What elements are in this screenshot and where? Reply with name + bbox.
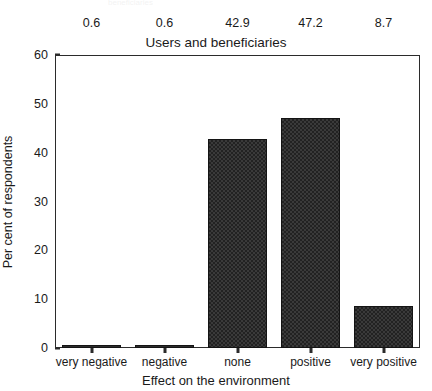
chart-title: Users and beneficiaries [0, 34, 432, 51]
x-axis-category-label: negative [142, 355, 187, 370]
y-axis-tick-label: 0 [14, 342, 48, 354]
x-axis-category-label: very positive [350, 355, 417, 370]
data-value-label: 0.6 [55, 14, 128, 32]
x-axis-ticks: very negativenegativenonepositivevery po… [55, 348, 420, 372]
y-axis-tick-label: 20 [14, 244, 48, 256]
bar-slot [354, 55, 412, 348]
x-axis-category-label: none [224, 355, 251, 370]
data-value-label-row: 0.60.642.947.28.7 [55, 14, 420, 32]
x-axis-tick-mark [163, 348, 166, 353]
data-value-label: 42.9 [201, 14, 274, 32]
x-axis-title: Effect on the environment [0, 372, 432, 389]
data-value-label: 0.6 [128, 14, 201, 32]
x-axis-tick-mark [236, 348, 239, 353]
x-axis-tick-mark [309, 348, 312, 353]
y-axis-tick-label: 10 [14, 293, 48, 305]
y-axis-title-text: Per cent of respondents [1, 135, 15, 268]
data-value-label: 47.2 [274, 14, 347, 32]
y-axis-tick-label: 60 [14, 49, 48, 61]
cropped-text-remnant: beneficiaries [108, 0, 204, 6]
bar [354, 306, 412, 348]
bar-slot [208, 55, 266, 348]
x-axis-category-label: positive [290, 355, 331, 370]
y-axis-tick-label: 30 [14, 196, 48, 208]
bar-slot [135, 55, 193, 348]
x-axis-tick-mark [382, 348, 385, 353]
bar [208, 139, 266, 348]
bar [281, 118, 339, 348]
bar-series [55, 55, 420, 348]
y-axis-tick-label: 40 [14, 147, 48, 159]
data-value-label: 8.7 [347, 14, 420, 32]
x-axis-tick-mark [90, 348, 93, 353]
x-axis-category-label: very negative [56, 355, 127, 370]
bar-slot [62, 55, 120, 348]
bar-slot [281, 55, 339, 348]
y-axis-tick-label: 50 [14, 98, 48, 110]
